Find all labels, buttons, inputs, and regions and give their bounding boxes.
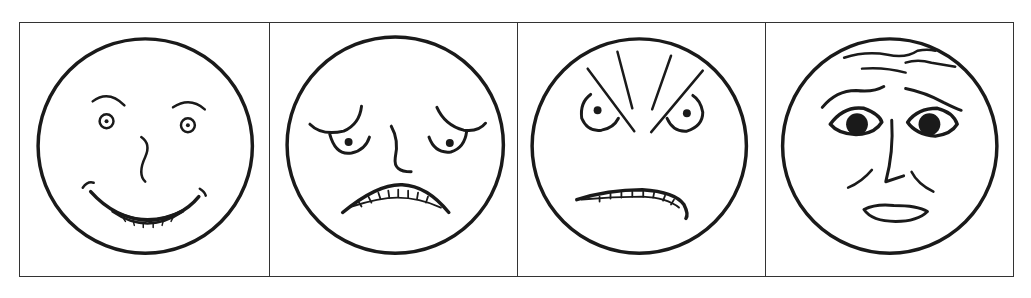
afraid-face-icon — [766, 23, 1014, 276]
angry-face-icon — [518, 23, 765, 276]
happy-face-icon — [20, 23, 269, 276]
sad-face-icon — [270, 23, 518, 276]
emotion-faces-strip — [19, 22, 1014, 277]
panel-happy — [20, 23, 270, 276]
panel-angry — [518, 23, 766, 276]
panel-afraid — [766, 23, 1014, 276]
panel-sad — [270, 23, 519, 276]
